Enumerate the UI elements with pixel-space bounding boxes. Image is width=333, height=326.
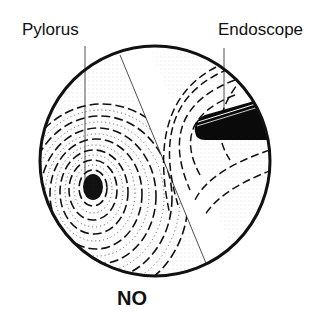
endoscopic-view-diagram — [0, 0, 333, 326]
verdict-label: NO — [117, 287, 147, 310]
pylorus-label: Pylorus — [22, 20, 79, 40]
endoscope-label: Endoscope — [218, 20, 303, 40]
view-contents — [16, 50, 280, 296]
